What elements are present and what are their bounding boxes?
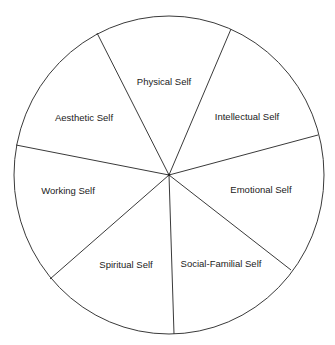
divider-line bbox=[169, 29, 231, 175]
segment-label-social-familial: Social-Familial Self bbox=[181, 259, 262, 269]
self-wheel-diagram bbox=[0, 0, 335, 345]
segment-label-emotional: Emotional Self bbox=[230, 185, 291, 195]
divider-line bbox=[97, 33, 169, 175]
divider-line bbox=[169, 175, 174, 334]
segment-label-intellectual: Intellectual Self bbox=[215, 112, 279, 122]
center-point bbox=[168, 174, 171, 177]
segment-label-spiritual: Spiritual Self bbox=[99, 260, 152, 270]
divider-line bbox=[16, 145, 169, 175]
segment-dividers bbox=[16, 29, 318, 334]
segment-label-aesthetic: Aesthetic Self bbox=[55, 113, 113, 123]
divider-line bbox=[169, 135, 318, 175]
segment-label-physical: Physical Self bbox=[137, 77, 191, 87]
segment-label-working: Working Self bbox=[41, 186, 95, 196]
